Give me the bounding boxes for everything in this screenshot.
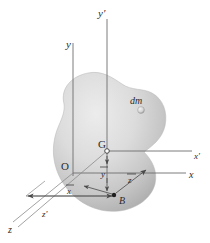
point-b-label: B (119, 195, 125, 206)
axis-x-prime-label: x' (193, 151, 201, 161)
point-b-marker (112, 193, 116, 197)
point-g-label: G (98, 138, 106, 150)
axis-y-label: y (65, 38, 71, 50)
x-bar-text: x (66, 186, 71, 196)
z-bar-text: z (127, 175, 132, 185)
figure-container: y' y x' x z z' O G B dm x y z (0, 0, 210, 243)
point-o-label: O (61, 160, 69, 172)
mass-element-label: dm (130, 95, 142, 106)
axis-z-label: z (7, 224, 12, 235)
axis-z-prime-label: z' (41, 209, 49, 219)
projection-line-left-tie (26, 181, 45, 196)
rigid-body-diagram: y' y x' x z z' O G B dm x y z (0, 0, 210, 243)
y-bar-text: y (100, 169, 105, 179)
mass-element-marker (138, 107, 145, 114)
axis-x-label: x (188, 169, 194, 180)
axis-y-prime-label: y' (97, 7, 106, 19)
